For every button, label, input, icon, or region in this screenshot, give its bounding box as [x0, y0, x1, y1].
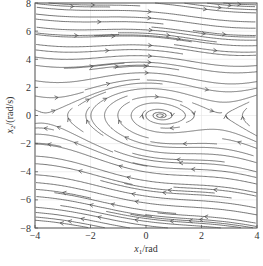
streamline	[131, 103, 256, 142]
streamline	[133, 163, 257, 178]
x-tick-label: 0	[144, 230, 149, 241]
streamline	[35, 134, 147, 166]
y-tick-label: 2	[26, 82, 31, 93]
y-tick-label: −4	[20, 166, 31, 177]
y-tick-label: −8	[20, 223, 31, 234]
streamline	[118, 102, 149, 138]
y-tick-label: 4	[26, 54, 31, 65]
streamline	[192, 103, 222, 113]
phase-portrait-figure: −4−2024 −8−6−4−202468 x1/rad x2/(rad/s)	[0, 0, 263, 266]
arrow-icon	[224, 115, 228, 119]
x-tick-label: 4	[255, 230, 260, 241]
y-tick-label: −2	[20, 138, 31, 149]
streamline	[36, 50, 183, 54]
x-axis-label: x1/rad	[133, 243, 158, 256]
streamline	[105, 96, 254, 156]
x-tick-label: −4	[30, 230, 41, 241]
y-tick-label: 0	[26, 110, 31, 121]
y-tick-label: 8	[26, 0, 31, 9]
x-tick-label: −2	[85, 230, 96, 241]
streamline	[174, 187, 257, 196]
streamline	[85, 79, 140, 90]
y-tick-label: −6	[20, 194, 31, 205]
streamline	[35, 164, 132, 185]
streamline	[147, 80, 257, 92]
y-tick-label: 6	[26, 26, 31, 37]
x-tick-label: 2	[199, 230, 204, 241]
x-axis-ticks: −4−2024	[30, 225, 260, 241]
streamline	[36, 197, 151, 217]
y-axis-label: x2/(rad/s)	[4, 97, 17, 135]
figure-caption	[60, 259, 210, 262]
streamline	[78, 92, 106, 106]
streamline	[35, 92, 84, 98]
